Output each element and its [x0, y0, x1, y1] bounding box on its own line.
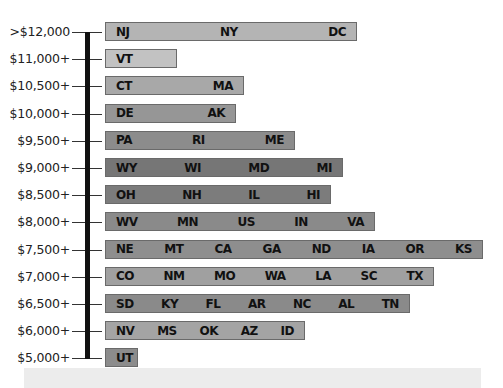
tier-label: >$12,000 — [0, 22, 70, 42]
y-axis-line — [85, 32, 90, 359]
state-label: NY — [220, 25, 238, 39]
state-label: WV — [116, 215, 138, 229]
state-label: IN — [294, 215, 308, 229]
state-label: AL — [338, 297, 354, 311]
chart-row: $10,500+CTMA — [0, 76, 503, 96]
state-label: AR — [248, 297, 266, 311]
tier-label: $10,500+ — [0, 76, 70, 96]
state-label: DC — [328, 25, 346, 39]
state-label: VA — [347, 215, 364, 229]
state-label: LA — [315, 269, 331, 283]
tier-bar: WVMNUSINVA — [105, 212, 375, 231]
state-label: IL — [248, 188, 259, 202]
state-label: PA — [116, 133, 132, 147]
state-label: TX — [407, 269, 423, 283]
state-label: MN — [177, 215, 198, 229]
tier-bar: CTMA — [105, 76, 244, 95]
state-label: OK — [200, 324, 219, 338]
state-label: KS — [455, 242, 472, 256]
tier-bar: WYWIMDMI — [105, 158, 343, 177]
state-label: NJ — [116, 25, 130, 39]
tier-bar: NJNYDC — [105, 22, 357, 41]
chart-row: $7,000+CONMMOWALASCTX — [0, 267, 503, 287]
tier-label: $6,500+ — [0, 294, 70, 314]
tier-label: $5,000+ — [0, 348, 70, 368]
chart-row: $9,000+WYWIMDMI — [0, 158, 503, 178]
chart-row: $8,500+OHNHILHI — [0, 185, 503, 205]
state-label: TN — [382, 297, 399, 311]
tier-label: $8,000+ — [0, 212, 70, 232]
state-label: WY — [116, 161, 137, 175]
chart-row: $6,500+SDKYFLARNCALTN — [0, 294, 503, 314]
chart-row: $10,000+DEAK — [0, 104, 503, 124]
state-label: OR — [406, 242, 424, 256]
tier-bar: NEMTCAGANDIAORKS — [105, 240, 483, 259]
state-label: MT — [164, 242, 183, 256]
chart-row: $8,000+WVMNUSINVA — [0, 212, 503, 232]
state-label: MI — [317, 161, 332, 175]
state-label: UT — [116, 351, 133, 365]
state-label: NC — [293, 297, 311, 311]
state-label: DE — [116, 106, 133, 120]
tier-bar: UT — [105, 348, 138, 367]
tier-bar: SDKYFLARNCALTN — [105, 294, 410, 313]
chart-row: $6,000+NVMSOKAZID — [0, 321, 503, 341]
state-label: RI — [192, 133, 205, 147]
chart-row: $9,500+PARIME — [0, 131, 503, 151]
state-label: AZ — [241, 324, 258, 338]
chart-row: $11,000+VT — [0, 49, 503, 69]
tier-label: $11,000+ — [0, 49, 70, 69]
tier-bar: CONMMOWALASCTX — [105, 267, 434, 286]
tier-label: $6,000+ — [0, 321, 70, 341]
state-label: SD — [116, 297, 134, 311]
state-label: VT — [116, 52, 132, 66]
state-label: MD — [248, 161, 269, 175]
footer-strip — [24, 368, 481, 388]
tier-bar: PARIME — [105, 131, 295, 150]
chart-row: $5,000+UT — [0, 348, 503, 368]
state-label: WA — [265, 269, 286, 283]
state-label: HI — [306, 188, 320, 202]
tier-bar: OHNHILHI — [105, 185, 331, 204]
state-label: OH — [116, 188, 135, 202]
state-label: US — [237, 215, 254, 229]
state-label: IA — [362, 242, 375, 256]
state-label: FL — [206, 297, 221, 311]
state-label: MO — [214, 269, 235, 283]
state-label: CT — [116, 79, 132, 93]
state-label: KY — [161, 297, 178, 311]
tier-label: $8,500+ — [0, 185, 70, 205]
state-label: SC — [361, 269, 377, 283]
state-label: ID — [281, 324, 294, 338]
state-label: WI — [184, 161, 201, 175]
state-label: ND — [312, 242, 331, 256]
tier-bar: NVMSOKAZID — [105, 321, 305, 340]
tier-label: $7,000+ — [0, 267, 70, 287]
state-label: ME — [265, 133, 284, 147]
tier-label: $9,000+ — [0, 158, 70, 178]
chart-row: $7,500+NEMTCAGANDIAORKS — [0, 240, 503, 260]
tier-label: $7,500+ — [0, 240, 70, 260]
chart-row: >$12,000NJNYDC — [0, 22, 503, 42]
state-label: AK — [207, 106, 225, 120]
state-label: CA — [214, 242, 231, 256]
tier-bar: DEAK — [105, 104, 236, 123]
tier-bar: VT — [105, 49, 177, 68]
state-label: MS — [157, 324, 177, 338]
state-label: CO — [116, 269, 134, 283]
state-label: NE — [116, 242, 133, 256]
state-label: NV — [116, 324, 134, 338]
state-label: MA — [213, 79, 233, 93]
tier-label: $9,500+ — [0, 131, 70, 151]
state-label: NH — [182, 188, 201, 202]
state-label: GA — [263, 242, 281, 256]
tier-label: $10,000+ — [0, 104, 70, 124]
state-label: NM — [164, 269, 185, 283]
